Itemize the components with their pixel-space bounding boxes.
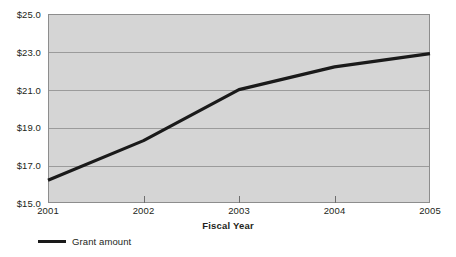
grant-amount-line bbox=[48, 54, 430, 181]
data-series-grant-amount bbox=[48, 14, 430, 203]
x-tick-label: 2004 bbox=[324, 205, 346, 216]
chart-legend: Grant amount bbox=[38, 236, 131, 247]
line-chart-figure: $15.0$17.0$19.0$21.0$23.0$25.0 200120022… bbox=[0, 0, 456, 257]
legend-label-grant-amount: Grant amount bbox=[72, 236, 131, 247]
legend-line-swatch bbox=[38, 240, 66, 244]
x-tick-label: 2002 bbox=[133, 205, 155, 216]
x-axis-title: Fiscal Year bbox=[0, 220, 456, 231]
x-tick-label: 2001 bbox=[37, 205, 59, 216]
x-tick-label: 2005 bbox=[419, 205, 441, 216]
x-tick-label: 2003 bbox=[228, 205, 250, 216]
